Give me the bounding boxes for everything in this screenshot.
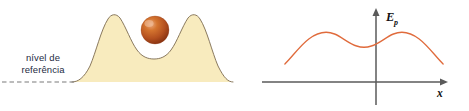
y-axis: [373, 8, 380, 105]
x-axis: [262, 79, 448, 86]
reference-level-label-line1: nível de: [6, 52, 80, 64]
svg-text:E: E: [385, 10, 394, 24]
svg-text:x: x: [436, 87, 443, 99]
x-axis-label: x: [436, 87, 443, 99]
potential-energy-graph: E p x: [240, 0, 450, 111]
figure-container: nível de referência E p: [0, 0, 469, 111]
svg-text:p: p: [393, 18, 398, 27]
energy-curve: [285, 32, 443, 64]
ball-sphere: [141, 16, 169, 44]
y-axis-label: E p: [385, 10, 398, 27]
hill-with-ball-diagram: nível de referência: [0, 0, 240, 111]
reference-level-label: nível de referência: [6, 52, 80, 75]
reference-level-label-line2: referência: [6, 64, 80, 76]
